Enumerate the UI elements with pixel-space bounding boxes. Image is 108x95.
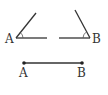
angle-b-label: B [92,32,101,46]
angle-a-label: A [4,32,14,46]
geometry-diagram: A B A B [0,0,108,95]
segment-ab-figure: A B [18,61,86,80]
angle-a-arc [20,33,23,38]
angle-b-figure: B [59,10,101,46]
segment-start-point [22,61,26,65]
segment-start-label: A [18,66,28,80]
angle-a-ray-upper [16,13,36,38]
segment-end-label: B [77,66,86,80]
angle-b-ray-upper [75,10,90,38]
segment-end-point [80,61,84,65]
angle-a-figure: A [4,13,47,46]
angle-b-arc [83,32,87,38]
